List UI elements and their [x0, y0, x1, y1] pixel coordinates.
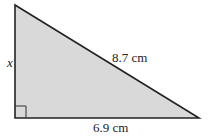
right-triangle — [15, 5, 199, 118]
triangle-diagram: x 8.7 cm 6.9 cm — [0, 0, 208, 138]
vertical-side-label: x — [6, 55, 13, 70]
hypotenuse-label: 8.7 cm — [112, 50, 147, 65]
base-label: 6.9 cm — [93, 120, 128, 135]
